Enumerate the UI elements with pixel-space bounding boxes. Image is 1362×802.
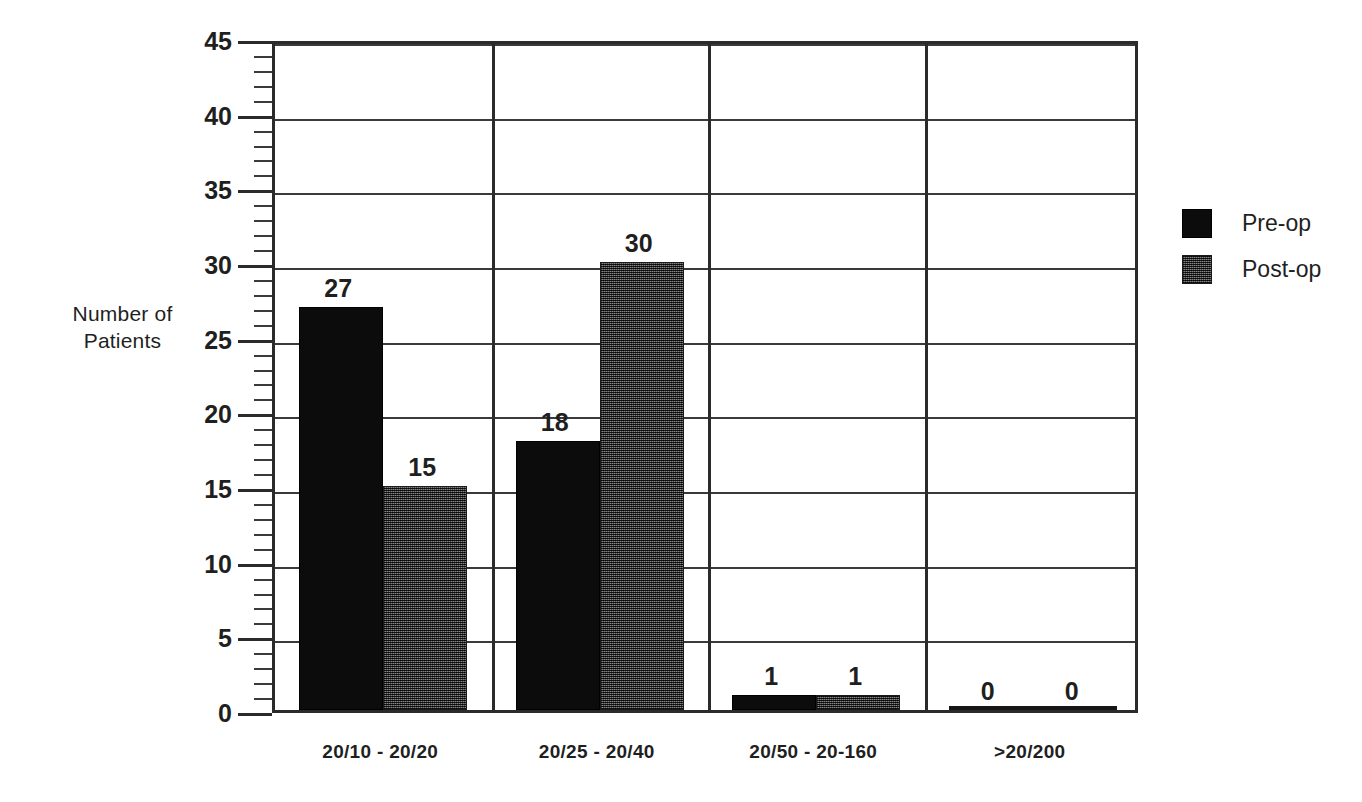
y-tick-label-30: 30 — [182, 251, 232, 280]
x-axis-label-group-3: 20/50 - 20-160 — [705, 741, 922, 763]
y-tick-minor-38 — [254, 146, 272, 148]
y-tick-minor-34 — [254, 205, 272, 207]
y-axis-title-line-1: Number of — [40, 300, 205, 327]
y-axis-title: Number of Patients — [40, 300, 205, 354]
legend: Pre-op Post-op — [1182, 200, 1321, 292]
y-tick-minor-11 — [254, 549, 272, 551]
bar-post-op-group-1 — [383, 486, 467, 710]
y-tick-major-45 — [238, 41, 272, 44]
y-tick-minor-6 — [254, 623, 272, 625]
bar-value-label-pre-op-group-1: 27 — [296, 274, 380, 303]
y-tick-minor-39 — [254, 131, 272, 133]
y-tick-minor-33 — [254, 220, 272, 222]
y-tick-minor-3 — [254, 668, 272, 670]
y-tick-label-20: 20 — [182, 400, 232, 429]
y-tick-minor-12 — [254, 534, 272, 536]
gridline-45 — [275, 44, 1135, 46]
y-tick-label-35: 35 — [182, 176, 232, 205]
y-tick-label-15: 15 — [182, 475, 232, 504]
bar-value-label-post-op-group-2: 30 — [597, 229, 681, 258]
y-tick-major-40 — [238, 116, 272, 119]
x-axis-label-group-1: 20/10 - 20/20 — [272, 741, 489, 763]
y-tick-major-30 — [238, 265, 272, 268]
legend-item-pre-op: Pre-op — [1182, 200, 1321, 246]
y-tick-minor-24 — [254, 355, 272, 357]
legend-swatch-post-op-icon — [1182, 255, 1212, 284]
y-tick-minor-36 — [254, 175, 272, 177]
y-tick-minor-41 — [254, 101, 272, 103]
y-tick-major-5 — [238, 638, 272, 641]
bar-post-op-group-4 — [1033, 706, 1117, 710]
bar-value-label-post-op-group-3: 1 — [813, 662, 897, 691]
bar-value-label-pre-op-group-2: 18 — [513, 408, 597, 437]
y-tick-minor-19 — [254, 429, 272, 431]
legend-label-pre-op: Pre-op — [1242, 210, 1311, 237]
gridline-35 — [275, 193, 1135, 195]
bar-chart: Number of Patients 051015202530354045 27… — [0, 0, 1362, 802]
y-tick-minor-18 — [254, 444, 272, 446]
gridline-30 — [275, 268, 1135, 270]
bar-value-label-pre-op-group-3: 1 — [729, 662, 813, 691]
group-divider-2 — [708, 44, 711, 710]
y-tick-minor-8 — [254, 594, 272, 596]
y-tick-minor-21 — [254, 399, 272, 401]
y-tick-minor-32 — [254, 235, 272, 237]
y-tick-minor-1 — [254, 698, 272, 700]
y-tick-minor-44 — [254, 56, 272, 58]
y-tick-minor-37 — [254, 160, 272, 162]
y-tick-minor-31 — [254, 250, 272, 252]
y-tick-minor-29 — [254, 280, 272, 282]
y-tick-major-25 — [238, 340, 272, 343]
group-divider-1 — [492, 44, 495, 710]
bar-pre-op-group-1 — [299, 307, 383, 710]
group-divider-3 — [925, 44, 928, 710]
y-tick-minor-27 — [254, 310, 272, 312]
y-tick-major-0 — [238, 713, 272, 716]
bar-value-label-post-op-group-1: 15 — [380, 453, 464, 482]
y-tick-minor-26 — [254, 325, 272, 327]
y-tick-minor-42 — [254, 86, 272, 88]
x-axis-label-group-2: 20/25 - 20/40 — [489, 741, 706, 763]
gridline-20 — [275, 417, 1135, 419]
y-tick-label-5: 5 — [182, 624, 232, 653]
bar-post-op-group-2 — [600, 262, 684, 710]
y-tick-minor-7 — [254, 608, 272, 610]
y-tick-minor-22 — [254, 384, 272, 386]
y-tick-label-10: 10 — [182, 549, 232, 578]
y-tick-minor-4 — [254, 653, 272, 655]
legend-label-post-op: Post-op — [1242, 256, 1321, 283]
gridline-25 — [275, 343, 1135, 345]
y-tick-label-40: 40 — [182, 101, 232, 130]
y-tick-minor-9 — [254, 579, 272, 581]
bar-pre-op-group-3 — [732, 695, 816, 710]
gridline-40 — [275, 119, 1135, 121]
legend-swatch-pre-op-icon — [1182, 209, 1212, 238]
y-tick-major-10 — [238, 564, 272, 567]
y-tick-minor-16 — [254, 474, 272, 476]
legend-item-post-op: Post-op — [1182, 246, 1321, 292]
bar-pre-op-group-2 — [516, 441, 600, 710]
y-tick-label-25: 25 — [182, 325, 232, 354]
y-axis-title-line-2: Patients — [40, 327, 205, 354]
plot-area — [272, 41, 1138, 713]
y-tick-minor-43 — [254, 71, 272, 73]
y-tick-label-0: 0 — [182, 699, 232, 728]
y-tick-label-45: 45 — [182, 27, 232, 56]
y-tick-major-35 — [238, 190, 272, 193]
bar-pre-op-group-4 — [949, 706, 1033, 710]
y-tick-minor-2 — [254, 683, 272, 685]
y-tick-minor-23 — [254, 370, 272, 372]
y-tick-major-20 — [238, 414, 272, 417]
y-tick-major-15 — [238, 489, 272, 492]
y-tick-minor-28 — [254, 295, 272, 297]
bar-value-label-pre-op-group-4: 0 — [946, 677, 1030, 706]
x-axis-label-group-4: >20/200 — [922, 741, 1139, 763]
y-tick-minor-13 — [254, 519, 272, 521]
y-tick-minor-17 — [254, 459, 272, 461]
y-tick-minor-14 — [254, 504, 272, 506]
bar-value-label-post-op-group-4: 0 — [1030, 677, 1114, 706]
bar-post-op-group-3 — [816, 695, 900, 710]
